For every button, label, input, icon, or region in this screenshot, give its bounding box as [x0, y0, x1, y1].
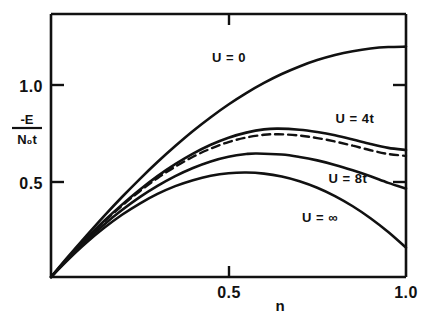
ytick-label-1: 1.0 [19, 78, 43, 95]
y-axis-label-numerator: -E [21, 112, 34, 127]
curve-label-u0: U = 0 [212, 50, 246, 65]
curve-label-u8t: U = 8t [329, 171, 368, 186]
xtick-label-05: 0.5 [217, 284, 241, 301]
curve-u-4t [51, 129, 406, 277]
x-axis-label: n [275, 297, 284, 314]
data-curves [51, 47, 406, 277]
curve-label-u4t: U = 4t [336, 111, 375, 126]
y-axis-label-denominator: N₀t [17, 132, 37, 147]
curve-label-uinf: U = ∞ [302, 210, 338, 225]
xtick-label-10: 1.0 [394, 284, 418, 301]
ytick-label-05: 0.5 [19, 175, 43, 192]
curve-u-0 [51, 47, 406, 277]
chart-figure: 1.0 0.5 0.5 1.0 n -E N₀t U = 0 U = 4t U … [0, 0, 429, 319]
plot-area: 1.0 0.5 0.5 1.0 n -E N₀t U = 0 U = 4t U … [0, 0, 429, 319]
